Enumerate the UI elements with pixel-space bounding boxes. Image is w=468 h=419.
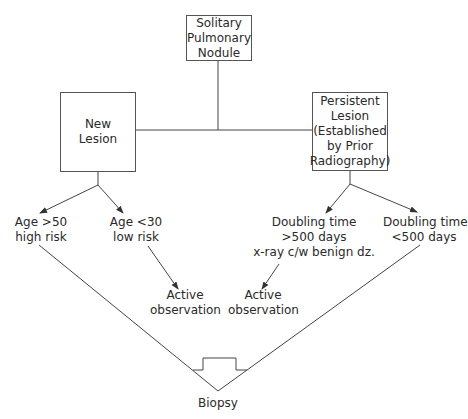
root-line-2: Pulmonary — [187, 31, 251, 46]
arrow-active-observation-right — [262, 264, 279, 289]
doubling-under-500-line-1: Doubling time — [383, 215, 465, 230]
doubling-under-500-line-2: <500 days — [383, 230, 465, 245]
persistent-line-4: by Prior — [310, 139, 391, 154]
active-observation-left-label: Active observation — [150, 288, 220, 318]
root-node-box: Solitary Pulmonary Nodule — [186, 15, 252, 61]
doubling-over-500-line-2: >500 days — [252, 230, 376, 245]
doubling-over-500-label: Doubling time >500 days x-ray c/w benign… — [252, 215, 376, 260]
root-line-1: Solitary — [187, 16, 251, 31]
arrow-active-observation-left — [148, 246, 178, 289]
persistent-line-1: Persistent — [310, 94, 391, 109]
doubling-over-500-line-3: x-ray c/w benign dz. — [252, 245, 376, 260]
age-over-50-label: Age >50 high risk — [10, 215, 72, 245]
biopsy-label: Biopsy — [190, 396, 246, 411]
doubling-under-500-label: Doubling time <500 days — [383, 215, 465, 245]
persistent-line-2: Lesion — [310, 109, 391, 124]
arrow-age-over-50 — [40, 185, 98, 213]
age-over-50-line-1: Age >50 — [10, 215, 72, 230]
age-under-30-label: Age <30 low risk — [105, 215, 167, 245]
age-under-30-line-2: low risk — [105, 230, 167, 245]
new-lesion-line-1: New — [79, 117, 117, 132]
persistent-lesion-box: Persistent Lesion (Established by Prior … — [312, 92, 388, 171]
active-observation-left-line-1: Active — [150, 288, 220, 303]
active-observation-left-line-2: observation — [150, 303, 220, 318]
line-fast-doubling-to-biopsy — [218, 245, 420, 391]
connector-lines — [0, 0, 468, 419]
biopsy-line-1: Biopsy — [190, 396, 246, 411]
doubling-over-500-line-1: Doubling time — [252, 215, 376, 230]
active-observation-right-line-1: Active — [228, 288, 298, 303]
root-line-3: Nodule — [187, 46, 251, 61]
active-observation-right-label: Active observation — [228, 288, 298, 318]
persistent-line-5: Radiography) — [310, 154, 391, 169]
biopsy-block-arrow — [193, 358, 247, 370]
line-high-risk-to-biopsy — [39, 245, 218, 391]
age-under-30-line-1: Age <30 — [105, 215, 167, 230]
new-lesion-box: New Lesion — [60, 92, 136, 172]
arrow-doubling-under-500 — [350, 184, 417, 212]
new-lesion-line-2: Lesion — [79, 132, 117, 147]
persistent-line-3: (Established — [310, 124, 391, 139]
arrow-age-under-30 — [98, 185, 123, 213]
age-over-50-line-2: high risk — [10, 230, 72, 245]
active-observation-right-line-2: observation — [228, 303, 298, 318]
arrow-doubling-over-500 — [326, 184, 350, 213]
